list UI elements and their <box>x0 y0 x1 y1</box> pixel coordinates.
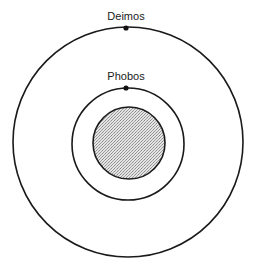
mars-moons-orbit-diagram: Deimos Phobos <box>0 0 256 268</box>
mars-planet <box>93 107 165 179</box>
phobos-moon-dot <box>123 85 128 90</box>
phobos-label: Phobos <box>107 70 145 82</box>
deimos-label: Deimos <box>107 10 145 22</box>
deimos-moon-dot <box>123 25 128 30</box>
